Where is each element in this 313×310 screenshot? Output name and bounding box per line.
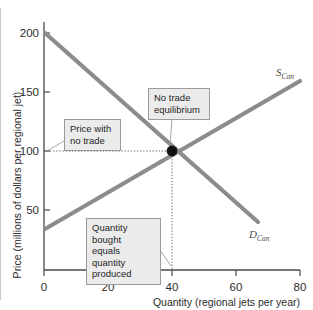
y-tick-label-200: 200	[20, 27, 39, 39]
x-tick-label-60: 60	[230, 281, 243, 293]
supply-demand-chart: 200 150 100 50 0 20 40 60 80 Price (mill…	[0, 0, 313, 310]
y-axis-title: Price (millions of dollars per regional …	[11, 92, 23, 279]
demand-curve-label-sub: Can	[257, 234, 270, 243]
demand-curve-label: DCan	[248, 228, 270, 243]
leader-price-no-trade	[47, 141, 64, 151]
supply-curve-label-sub: Can	[282, 72, 295, 81]
annotation-no-trade-equilibrium: No trade equilibrium	[148, 88, 210, 120]
annotation-quantity-bought-equals-produced: Quantity bought equals quantity produced	[86, 218, 161, 285]
y-tick-label-50: 50	[26, 204, 39, 216]
leader-quantity-bought	[160, 250, 171, 266]
x-tick-label-80: 80	[294, 281, 307, 293]
supply-curve-label: SCan	[276, 66, 294, 81]
x-tick-label-0: 0	[41, 281, 47, 293]
equilibrium-point-marker	[167, 146, 178, 157]
x-tick-label-40: 40	[166, 281, 179, 293]
demand-curve-label-main: D	[248, 228, 257, 240]
x-axis-title: Quantity (regional jets per year)	[153, 296, 300, 308]
annotation-price-with-no-trade: Price with no trade	[64, 119, 121, 151]
